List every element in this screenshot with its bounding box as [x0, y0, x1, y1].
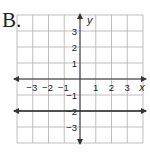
- y-tick-label: −3: [66, 122, 77, 133]
- y-tick-label: 2: [72, 42, 77, 53]
- coordinate-plane: xy−3−2−1123321−1−2−3: [0, 0, 150, 152]
- x-tick-label: 1: [93, 82, 98, 93]
- y-axis-arrow-up-icon: [77, 13, 83, 19]
- y-tick-label: 3: [72, 26, 77, 37]
- y-axis-label: y: [86, 14, 94, 26]
- x-tick-label: −3: [26, 82, 37, 93]
- line-arrow-left-icon: [13, 108, 19, 114]
- x-axis-label: x: [138, 81, 145, 93]
- line-arrow-right-icon: [141, 108, 147, 114]
- x-tick-label: −2: [42, 82, 53, 93]
- y-axis-arrow-down-icon: [77, 139, 83, 145]
- x-axis-arrow-left-icon: [13, 76, 19, 82]
- x-tick-label: 2: [109, 82, 114, 93]
- x-tick-label: 3: [125, 82, 130, 93]
- y-tick-label: 1: [72, 58, 77, 69]
- y-tick-label: −1: [66, 90, 77, 101]
